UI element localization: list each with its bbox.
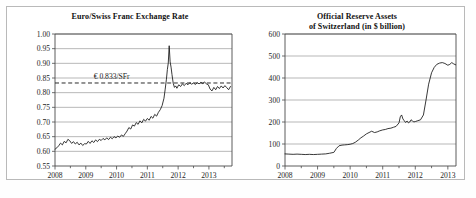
data-series-line	[55, 46, 230, 150]
y-tick-label: 0.95	[37, 44, 50, 53]
x-tick-label: 2008	[47, 171, 62, 180]
figure-frame: Euro/Swiss Franc Exchange Rate 1.000.950…	[6, 6, 465, 180]
data-series-line	[285, 63, 456, 155]
y-tick-label: 0.60	[37, 147, 50, 156]
reference-line-label: € 0.833/SFr	[94, 72, 130, 81]
x-tick-label: 2013	[201, 171, 216, 180]
x-tick-label: 2009	[78, 171, 93, 180]
x-tick-label: 2011	[375, 171, 390, 180]
chart-panel-exchange-rate: Euro/Swiss Franc Exchange Rate 1.000.950…	[21, 7, 239, 181]
y-tick-label: 300	[269, 96, 281, 105]
x-tick-label: 2012	[171, 171, 186, 180]
x-tick-label: 2011	[140, 171, 155, 180]
x-tick-label: 2012	[408, 171, 423, 180]
chart-svg-exchange-rate: 1.000.950.900.850.800.750.700.650.600.55…	[21, 7, 239, 181]
x-tick-label: 2010	[343, 171, 358, 180]
x-tick-label: 2013	[440, 171, 455, 180]
y-tick-label: 0.75	[37, 103, 50, 112]
y-tick-label: 1.00	[37, 30, 50, 39]
y-tick-label: 400	[269, 74, 281, 83]
y-tick-label: 0.55	[37, 162, 50, 171]
chart-svg-reserve-assets: 6005004003002001000200820092010201120122…	[251, 7, 463, 181]
y-tick-label: 0	[276, 162, 280, 171]
y-tick-label: 0.85	[37, 74, 50, 83]
chart-panel-reserve-assets: Official Reserve Assets of Switzerland (…	[251, 7, 463, 181]
x-tick-label: 2008	[277, 171, 292, 180]
x-tick-label: 2010	[109, 171, 124, 180]
x-tick-label: 2009	[310, 171, 325, 180]
y-tick-label: 200	[269, 118, 281, 127]
y-tick-label: 100	[269, 140, 281, 149]
y-tick-label: 0.70	[37, 118, 50, 127]
y-tick-label: 600	[269, 30, 281, 39]
y-tick-label: 0.90	[37, 59, 50, 68]
y-tick-label: 0.80	[37, 88, 50, 97]
y-tick-label: 500	[269, 52, 281, 61]
figure-container: Euro/Swiss Franc Exchange Rate 1.000.950…	[0, 0, 476, 198]
y-tick-label: 0.65	[37, 132, 50, 141]
